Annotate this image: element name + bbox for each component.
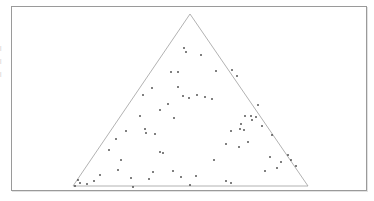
margin-text-line-1: |: [0, 42, 6, 55]
clipped-margin-text: | | |: [0, 42, 6, 84]
figure-root: | | |: [0, 0, 374, 201]
margin-text-line-3: |: [0, 68, 6, 81]
margin-text-line-2: |: [0, 55, 6, 68]
plot-frame-border: [11, 6, 367, 191]
